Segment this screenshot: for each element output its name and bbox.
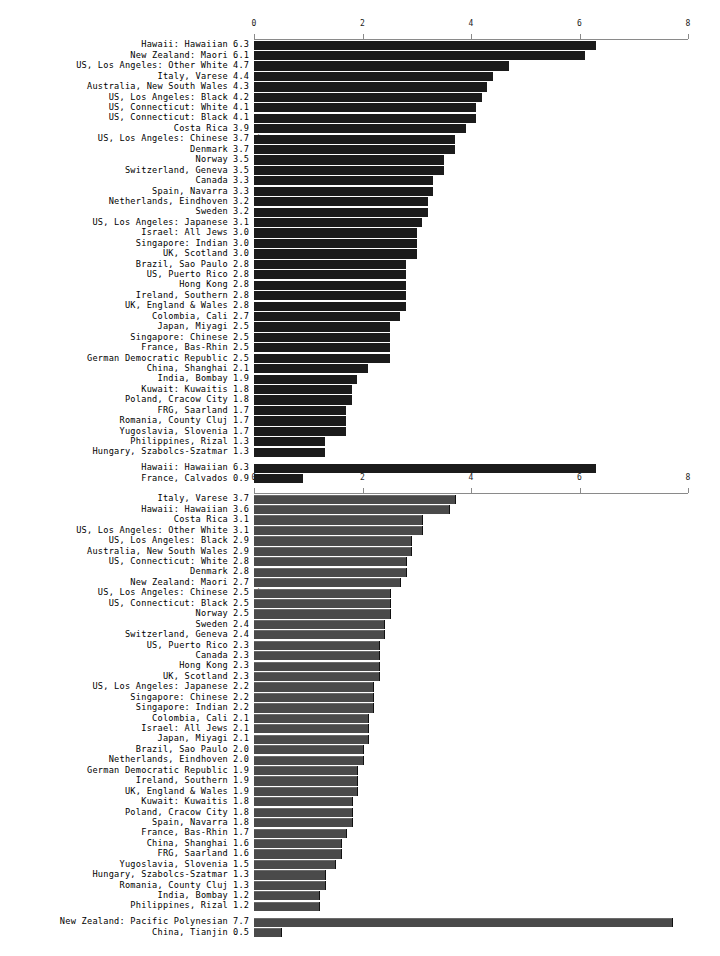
top-row-label: UK, England & Wales	[125, 301, 228, 311]
top-bar	[254, 187, 433, 196]
bottom-row-value: 2.0	[233, 745, 249, 755]
top-bar	[254, 208, 428, 217]
table-row: Netherlands, Eindhoven3.2	[0, 197, 720, 207]
top-row-label: Colombia, Cali	[152, 312, 228, 322]
table-row: FRG, Saarland1.6	[0, 849, 720, 859]
table-row: US, Los Angeles: Black4.2	[0, 92, 720, 102]
top-row-value: 2.5	[233, 322, 249, 332]
table-row: Switzerland, Geneva3.5	[0, 165, 720, 175]
table-row: China, Shanghai1.6	[0, 838, 720, 848]
top-row-label: UK, Scotland	[163, 249, 228, 259]
top-row-value: 2.5	[233, 354, 249, 364]
bottom-bar	[254, 928, 282, 937]
bottom-bar	[254, 578, 401, 587]
top-bar	[254, 61, 509, 70]
top-row-value: 3.5	[233, 155, 249, 165]
table-row: UK, England & Wales2.8	[0, 301, 720, 311]
top-row-label: US, Connecticut: White	[109, 103, 228, 113]
table-row: US, Los Angeles: Other White4.7	[0, 61, 720, 71]
top-bar	[254, 354, 390, 363]
bottom-row-value: 1.9	[233, 787, 249, 797]
bottom-row-value: 2.3	[233, 661, 249, 671]
top-row-label: FRG, Saarland	[157, 406, 228, 416]
bottom-row-value: 1.7	[233, 828, 249, 838]
table-row: US, Connecticut: White2.8	[0, 557, 720, 567]
bottom-row-value: 2.8	[233, 567, 249, 577]
bottom-bar	[254, 505, 450, 514]
top-row-label: India, Bombay	[157, 374, 228, 384]
table-row: Switzerland, Geneva2.4	[0, 630, 720, 640]
table-row: Hawaii: Hawaiian3.6	[0, 504, 720, 514]
bottom-row-value: 2.2	[233, 703, 249, 713]
top-bar	[254, 72, 493, 81]
top-row-value: 1.8	[233, 385, 249, 395]
bottom-axis-tick-label: 2	[360, 474, 365, 482]
bottom-bar	[254, 724, 369, 733]
top-bar	[254, 135, 455, 144]
top-row-label: US, Los Angeles: Other White	[76, 61, 228, 71]
table-row: New Zealand: Pacific Polynesian7.7	[0, 917, 720, 927]
bottom-bar	[254, 787, 358, 796]
bottom-row-value: 1.9	[233, 766, 249, 776]
top-row-label: Philippines, Rizal	[130, 437, 228, 447]
top-bar	[254, 228, 417, 237]
bottom-row-value: 7.7	[233, 917, 249, 927]
top-row-label: Hong Kong	[179, 280, 228, 290]
bottom-bar	[254, 672, 380, 681]
table-row: Poland, Cracow City1.8	[0, 395, 720, 405]
top-row-value: 3.2	[233, 197, 249, 207]
top-row-value: 2.7	[233, 312, 249, 322]
table-row: Costa Rica3.1	[0, 515, 720, 525]
bottom-row-label: UK, Scotland	[163, 672, 228, 682]
top-bar	[254, 103, 476, 112]
top-row-value: 3.7	[233, 134, 249, 144]
table-row: Canada2.3	[0, 651, 720, 661]
bottom-row-value: 1.8	[233, 808, 249, 818]
table-row: Kuwait: Kuwaitis1.8	[0, 384, 720, 394]
table-row: Norway3.5	[0, 155, 720, 165]
table-row: Spain, Navarra3.3	[0, 186, 720, 196]
table-row: US, Los Angeles: Black2.9	[0, 536, 720, 546]
top-bar	[254, 375, 357, 384]
bottom-bar	[254, 818, 353, 827]
table-row: China, Shanghai2.1	[0, 364, 720, 374]
top-bar	[254, 333, 390, 342]
top-bar	[254, 270, 406, 279]
bottom-bar	[254, 860, 336, 869]
top-bar	[254, 218, 422, 227]
bottom-bar	[254, 568, 407, 577]
bottom-row-value: 3.1	[233, 515, 249, 525]
table-row: Colombia, Cali2.7	[0, 311, 720, 321]
table-row: Yugoslavia, Slovenia1.7	[0, 426, 720, 436]
bottom-row-value: 2.7	[233, 578, 249, 588]
top-row-value: 4.1	[233, 113, 249, 123]
table-row: Singapore: Chinese2.2	[0, 692, 720, 702]
table-row: Singapore: Chinese2.5	[0, 332, 720, 342]
top-bar	[254, 364, 368, 373]
top-axis-tick-label: 2	[360, 20, 365, 28]
bottom-row-value: 2.5	[233, 599, 249, 609]
bottom-row-value: 2.9	[233, 547, 249, 557]
bottom-bar	[254, 526, 423, 535]
bottom-row-label: Kuwait: Kuwaitis	[141, 797, 228, 807]
top-bar	[254, 93, 482, 102]
top-row-label: France, Bas-Rhin	[141, 343, 228, 353]
bottom-bar	[254, 776, 358, 785]
bottom-row-label: Australia, New South Wales	[87, 547, 228, 557]
chart-page: 02468 Hawaii: Hawaiian6.3New Zealand: Ma…	[0, 0, 720, 956]
top-row-value: 2.8	[233, 301, 249, 311]
x-axis-top: 02468	[0, 18, 720, 40]
bottom-row-label: India, Bombay	[157, 891, 228, 901]
top-bar	[254, 51, 585, 60]
bottom-axis-tick	[254, 488, 255, 493]
bottom-bar	[254, 641, 380, 650]
table-row: US, Connecticut: White4.1	[0, 103, 720, 113]
top-bar	[254, 145, 455, 154]
bottom-row-label: Singapore: Indian	[136, 703, 228, 713]
top-row-value: 1.7	[233, 427, 249, 437]
top-row-label: New Zealand: Maori	[130, 51, 228, 61]
bottom-bar	[254, 630, 385, 639]
bottom-row-label: UK, England & Wales	[125, 787, 228, 797]
bar-rows-top: Hawaii: Hawaiian6.3New Zealand: Maori6.1…	[0, 40, 720, 484]
top-row-label: Kuwait: Kuwaitis	[141, 385, 228, 395]
